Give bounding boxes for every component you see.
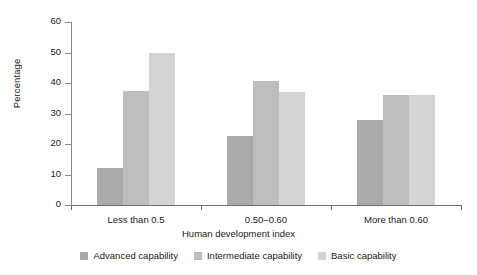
legend: Advanced capabilityIntermediate capabili… [0, 250, 477, 261]
x-axis-group-label: 0.50–0.60 [245, 214, 287, 225]
x-axis-tick [331, 205, 332, 210]
legend-label: Intermediate capability [207, 250, 302, 261]
legend-swatch-icon [80, 252, 88, 260]
y-axis-title: Percentage [11, 24, 22, 144]
legend-item: Advanced capability [80, 250, 178, 261]
legend-swatch-icon [194, 252, 202, 260]
bar [253, 81, 279, 205]
legend-label: Basic capability [331, 250, 396, 261]
x-axis-tick [71, 205, 72, 210]
bar [383, 95, 409, 205]
x-axis-group-label: More than 0.60 [364, 214, 428, 225]
y-axis-tick-label: 40 [50, 76, 61, 87]
y-axis-tick-label: 10 [50, 168, 61, 179]
bar [279, 92, 305, 205]
y-axis-tick: 40 [65, 83, 71, 84]
bar [123, 91, 149, 205]
y-axis-tick: 20 [65, 144, 71, 145]
x-axis-tick [461, 205, 462, 210]
x-axis-group-label: Less than 0.5 [107, 214, 164, 225]
bar [227, 136, 253, 205]
bar [149, 53, 175, 206]
legend-item: Intermediate capability [194, 250, 302, 261]
y-axis-line [71, 22, 72, 205]
x-axis-line [71, 205, 461, 206]
y-axis-tick-label: 60 [50, 15, 61, 26]
x-axis-title: Human development index [0, 228, 477, 239]
bar [409, 95, 435, 205]
y-axis-tick: 10 [65, 175, 71, 176]
x-axis-tick [201, 205, 202, 210]
bar-chart-figure: Percentage 0102030405060 Less than 0.50.… [0, 0, 477, 275]
legend-item: Basic capability [318, 250, 396, 261]
bar [357, 120, 383, 205]
y-axis-tick-label: 30 [50, 107, 61, 118]
y-axis-tick: 60 [65, 22, 71, 23]
legend-swatch-icon [318, 252, 326, 260]
y-axis-tick: 30 [65, 114, 71, 115]
plot-area: 0102030405060 Less than 0.50.50–0.60More… [71, 22, 461, 205]
y-axis-tick-label: 20 [50, 137, 61, 148]
y-axis-tick-label: 0 [56, 198, 61, 209]
legend-label: Advanced capability [93, 250, 178, 261]
y-axis-tick: 50 [65, 53, 71, 54]
y-axis-tick-label: 50 [50, 46, 61, 57]
bar [97, 168, 123, 205]
